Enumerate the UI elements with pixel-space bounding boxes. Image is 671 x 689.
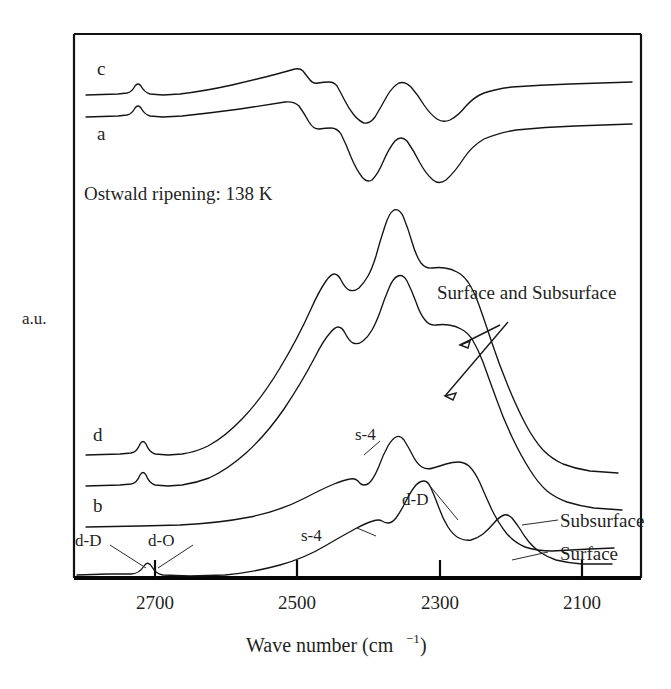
spectra-figure: c a d b Ostwald ripening: 138 K Surface … [0,0,671,689]
spectra-svg: c a d b Ostwald ripening: 138 K Surface … [0,0,671,689]
peak-label-s4-lower: s-4 [301,526,322,545]
x-tick-label-2700: 2700 [136,592,174,613]
x-axis-title-tail: ) [420,634,427,657]
y-axis-label: a.u. [22,309,47,328]
x-tick-label-2500: 2500 [278,592,316,613]
x-tick-label-2300: 2300 [421,592,459,613]
curve-letter-b: b [93,495,103,516]
x-axis-title-main: Wave number (cm [246,634,394,657]
ostwald-ripening-annotation: Ostwald ripening: 138 K [84,183,273,204]
curve-letter-d: d [93,424,103,445]
peak-label-dO-left: d-O [148,531,174,550]
curve-letter-c: c [97,58,105,79]
figure-background [0,0,671,689]
peak-label-dD-left: d-D [75,531,101,550]
peak-label-s4-upper: s-4 [355,425,376,444]
label-surface-and-subsurface: Surface and Subsurface [437,282,616,303]
x-axis-title-superscript: −1 [406,631,420,646]
x-tick-label-2100: 2100 [563,592,601,613]
curve-letter-a: a [97,123,106,144]
peak-label-dD-mid: d-D [402,490,428,509]
label-subsurface: Subsurface [560,510,644,531]
label-surface: Surface [560,543,618,564]
